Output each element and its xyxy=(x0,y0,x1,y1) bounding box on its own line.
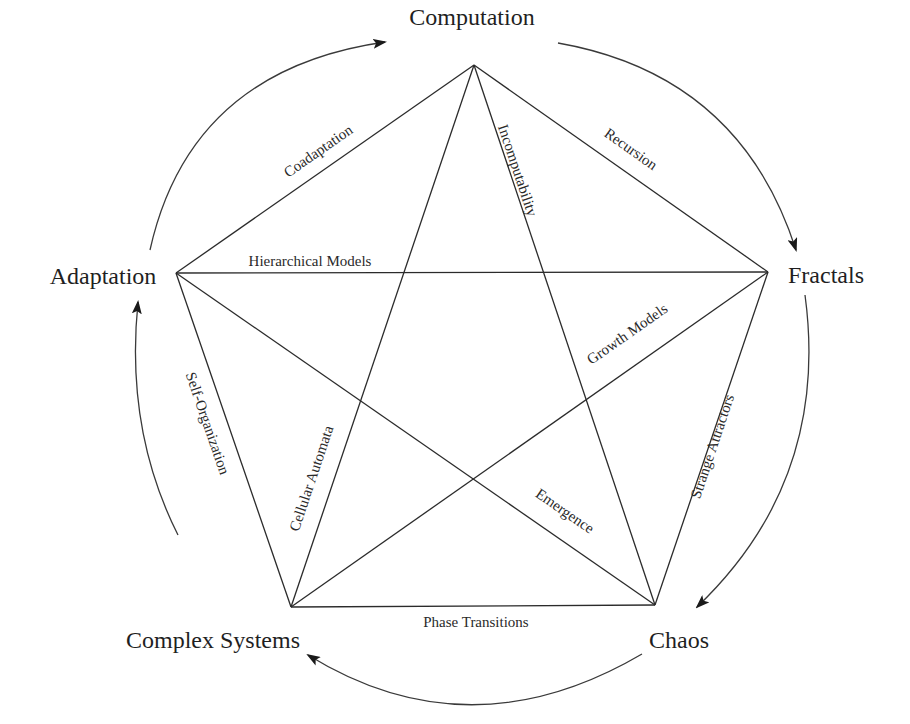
edge-adaptation-chaos xyxy=(176,273,655,605)
node-complex-systems: Complex Systems xyxy=(126,627,300,653)
edge-complex-systems-adaptation xyxy=(176,273,291,607)
edge-label-coadaptation: Coadaptation xyxy=(281,121,356,180)
node-fractals: Fractals xyxy=(788,262,864,288)
node-chaos: Chaos xyxy=(649,627,709,653)
edge-label-strange-attractors: Strange Attractors xyxy=(687,392,737,500)
arc-chaos-to-complex-systems xyxy=(308,654,642,705)
edge-computation-adaptation xyxy=(176,65,474,273)
edge-label-phase-transitions: Phase Transitions xyxy=(423,614,529,630)
edge-label-hierarchical-models: Hierarchical Models xyxy=(249,253,372,269)
edge-label-recursion: Recursion xyxy=(601,125,660,173)
edge-chaos-complex-systems xyxy=(291,605,655,607)
arc-adaptation-to-computation xyxy=(150,42,385,250)
node-computation: Computation xyxy=(409,4,534,30)
edge-fractals-complex-systems xyxy=(291,272,768,607)
edge-label-growth-models: Growth Models xyxy=(584,300,671,367)
node-adaptation: Adaptation xyxy=(50,263,157,289)
arc-complex-systems-to-adaptation xyxy=(135,302,178,535)
arc-computation-to-fractals xyxy=(558,43,796,250)
edge-label-emergence: Emergence xyxy=(533,485,598,537)
edge-label-cellular-automata: Cellular Automata xyxy=(286,423,336,533)
edge-adaptation-fractals xyxy=(176,272,768,273)
edge-label-self-organization: Self-Organization xyxy=(183,370,233,477)
pentagram-diagram: Computation Adaptation Fractals Complex … xyxy=(0,0,910,724)
edge-label-incomputability: Incomputability xyxy=(495,122,541,218)
